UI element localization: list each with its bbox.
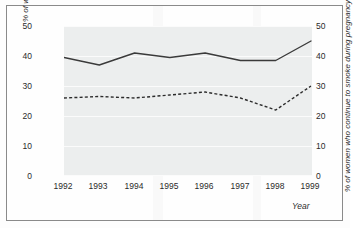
x-tick-1994: 1994 <box>114 182 154 191</box>
y-tick-left-30: 30 <box>10 82 32 91</box>
y-tick-right-0: 0 <box>316 172 338 181</box>
y-axis-right-title: % of women who continue to smoke during … <box>343 42 353 192</box>
x-tick-1992: 1992 <box>43 182 83 191</box>
y-tick-right-10: 10 <box>316 142 338 151</box>
y-tick-left-40: 40 <box>10 52 32 61</box>
series-line-continue-smoking <box>64 86 311 110</box>
y-tick-right-40: 40 <box>316 52 338 61</box>
x-tick-1995: 1995 <box>149 182 189 191</box>
y-tick-left-20: 20 <box>10 112 32 121</box>
x-tick-1999: 1999 <box>290 182 330 191</box>
plot-area <box>64 26 312 176</box>
x-tick-1996: 1996 <box>184 182 224 191</box>
x-tick-1993: 1993 <box>78 182 118 191</box>
x-tick-1998: 1998 <box>255 182 295 191</box>
y-tick-right-30: 30 <box>316 82 338 91</box>
x-axis-title: Year <box>292 202 310 212</box>
y-tick-right-20: 20 <box>316 112 338 121</box>
chart-series-svg <box>64 26 312 176</box>
y-tick-left-0: 0 <box>10 172 32 181</box>
y-tick-left-50: 50 <box>10 22 32 31</box>
series-line-smoking-before-pregnancy <box>64 41 311 65</box>
y-tick-right-50: 50 <box>316 22 338 31</box>
y-tick-left-10: 10 <box>10 142 32 151</box>
x-tick-1997: 1997 <box>220 182 260 191</box>
chart-frame: % of women smoking in 12 months before t… <box>6 5 343 221</box>
